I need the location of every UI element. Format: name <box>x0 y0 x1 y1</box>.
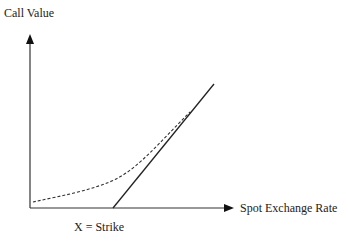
x-axis-label: Spot Exchange Rate <box>240 201 337 216</box>
option-value-curve <box>33 112 190 202</box>
strike-label: X = Strike <box>74 220 124 235</box>
x-axis-arrow-icon <box>224 204 234 212</box>
y-axis-arrow-icon <box>26 34 34 44</box>
intrinsic-value-line <box>113 84 214 208</box>
